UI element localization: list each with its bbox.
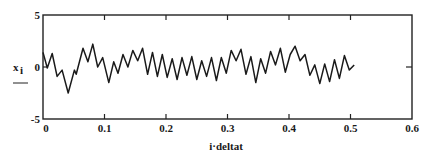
svg-text:x: x (13, 61, 19, 73)
x-tick-label: 0.1 (98, 122, 112, 134)
x-tick-label: 0.4 (282, 122, 296, 134)
x-tick-label: 0.3 (221, 122, 235, 134)
time-series-chart: 00.10.20.30.40.50.6 -505 x i i·deltat (0, 0, 427, 156)
x-tick-label: 0.5 (344, 122, 358, 134)
y-axis-tick-labels: -505 (31, 9, 41, 125)
y-tick-label: -5 (31, 113, 41, 125)
y-axis-title-group: x i (13, 61, 28, 83)
x-axis-tick-labels: 00.10.20.30.40.50.6 (43, 122, 419, 134)
data-series-line (43, 44, 354, 93)
y-tick-label: 5 (35, 9, 41, 21)
svg-text:i: i (20, 64, 23, 76)
x-axis-title: i·deltat (209, 140, 243, 152)
x-tick-label: 0.6 (405, 122, 419, 134)
y-tick-label: 0 (35, 61, 41, 73)
x-tick-label: 0 (43, 122, 49, 134)
x-tick-label: 0.2 (159, 122, 173, 134)
